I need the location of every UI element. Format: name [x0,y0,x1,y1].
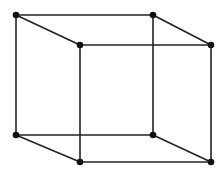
cube-edge [16,135,80,162]
vertex-dot [13,12,20,19]
vertex-dot [208,42,215,49]
cube-diagram [0,0,224,171]
cube-edge [153,15,211,45]
vertex-dot [13,132,20,139]
vertex-dot [150,132,157,139]
cube-vertices [13,12,215,166]
vertex-dot [208,159,215,166]
cube-edge [153,135,211,162]
cube-edge [16,15,80,45]
vertex-dot [77,159,84,166]
cube-edges [16,15,211,162]
vertex-dot [150,12,157,19]
vertex-dot [77,42,84,49]
